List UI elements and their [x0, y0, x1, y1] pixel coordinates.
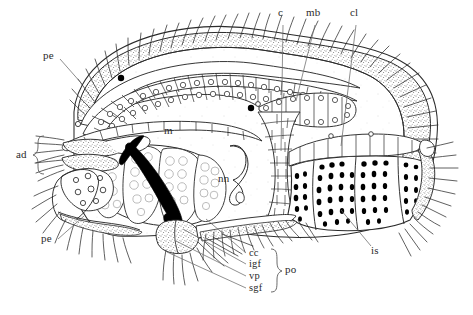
label-vp: vp — [249, 270, 260, 281]
ventral-lobe-stippled — [156, 220, 199, 254]
label-nn: nn — [218, 173, 229, 184]
brace-po — [271, 249, 282, 292]
v-point-ring — [256, 102, 261, 107]
label-cl: cl — [350, 7, 358, 18]
anterior-ring — [75, 121, 80, 126]
label-po: po — [285, 264, 296, 275]
label-c: c — [278, 7, 283, 18]
leader-pe-upper — [60, 59, 82, 84]
v-point-dot — [248, 105, 254, 111]
label-pe-lower: pe — [41, 233, 52, 244]
label-cc: cc — [249, 247, 259, 258]
label-m: m — [164, 125, 173, 136]
label-igf: igf — [249, 258, 261, 269]
label-mb: mb — [306, 7, 320, 18]
anatomical-section-drawing — [0, 0, 473, 315]
label-is: is — [371, 245, 379, 256]
dorsal-dot — [118, 75, 124, 81]
label-sgf: sgf — [249, 282, 262, 293]
label-pe-upper: pe — [43, 50, 54, 61]
nerve-node-droplet — [236, 192, 244, 203]
label-ad: ad — [16, 149, 27, 160]
figure-root: c mb cl pe ad pe m nn is cc igf vp sgf p… — [0, 0, 473, 315]
intestine-outline — [288, 156, 428, 231]
brace-ad — [33, 136, 44, 174]
